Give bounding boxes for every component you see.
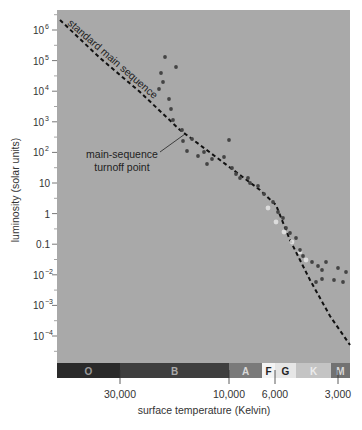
star-point [222,155,226,159]
y-tick-exponent: 3 [45,115,49,122]
y-tick-exponent: −3 [45,298,53,305]
star-point [227,138,231,142]
y-tick-label: 10 [33,86,45,97]
star-point [284,226,288,230]
y-axis-ticks: 1061051041031021010.110−210−310−4 [33,23,57,342]
star-point [230,166,234,170]
star-point [262,192,266,196]
spectral-class-label: B [171,366,178,377]
star-point [336,266,340,270]
star-point [320,268,324,272]
star-point [320,277,324,281]
y-tick-label: 10 [33,117,45,128]
star-point [157,87,161,91]
spectral-class-label: A [242,366,249,377]
star-point [169,107,173,111]
star-point [202,150,206,154]
turnoff-label-line1: main-sequence [86,148,158,160]
star-point [288,231,292,235]
star-point [161,80,165,84]
star-point [314,280,318,284]
y-tick-label: 10 [39,178,51,189]
star-point [190,137,194,141]
y-axis-label: luminosity (solar units) [9,138,21,242]
star-point [256,184,260,188]
star-point [344,270,348,274]
star-point [205,162,209,166]
star-point [185,149,189,153]
star-point [246,176,250,180]
spectral-class-label: M [336,366,344,377]
star-point [271,200,275,204]
y-tick-label: 10 [33,56,45,67]
x-axis-label: surface temperature (Kelvin) [138,404,270,416]
y-tick-label: 10 [33,331,45,342]
spectral-class-bar: OBAFGKM [57,363,350,378]
star-point [276,210,280,214]
star-point [181,139,185,143]
y-tick-label: 10 [33,270,45,281]
spectral-class-label: O [85,366,93,377]
y-tick-label: 10 [33,147,45,158]
star-point [196,154,200,158]
star-point [167,97,171,101]
y-tick-label: 10 [33,300,45,311]
star-point [341,280,345,284]
star-point [310,260,314,264]
y-tick-exponent: −4 [45,329,53,336]
star-point [324,260,328,264]
y-tick-exponent: 4 [45,84,49,91]
hr-diagram-chart: 1061051041031021010.110−210−310−4 standa… [0,0,362,430]
plot-background [57,10,350,363]
spectral-class-label: F [265,366,271,377]
star-point [234,172,238,176]
turnoff-label-line2: turnoff point [94,161,149,173]
star-point [180,128,184,132]
star-point [174,65,178,69]
star-point-light [282,230,287,235]
y-tick-exponent: −2 [45,268,53,275]
star-point [294,236,298,240]
y-tick-exponent: 6 [45,23,49,30]
star-point [238,176,242,180]
x-tick-label: 30,000 [104,388,136,400]
x-tick-label: 6,000 [262,388,288,400]
y-tick-label: 1 [44,209,50,220]
spectral-class-label: G [282,366,290,377]
star-point [210,157,214,161]
x-tick-label: 3,000 [325,388,351,400]
y-tick-exponent: 2 [45,145,49,152]
y-tick-label: 0.1 [36,239,50,250]
star-point [248,181,252,185]
y-tick-exponent: 5 [45,54,49,61]
star-point-light [266,206,271,211]
y-tick-label: 10 [33,25,45,36]
star-point-light [304,258,309,263]
star-point [301,254,305,258]
star-point [281,216,285,220]
star-point [316,264,320,268]
spectral-class-label: K [310,366,318,377]
star-point [332,278,336,282]
star-point [163,55,167,59]
x-tick-label: 10,000 [213,388,245,400]
star-point-light [274,220,279,225]
star-point [171,118,175,122]
star-point-light [290,240,295,245]
star-point [298,248,302,252]
star-point [159,71,163,75]
